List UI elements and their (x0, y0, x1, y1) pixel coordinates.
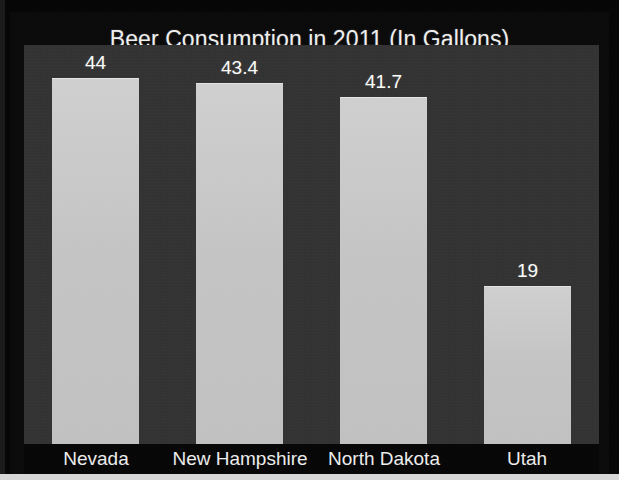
plot-area: 4443.441.719 (24, 45, 599, 444)
category-label: New Hampshire (168, 444, 312, 474)
frame-bottom-edge (0, 474, 619, 480)
bar[interactable] (52, 78, 139, 444)
bar-value-label: 41.7 (340, 71, 427, 93)
bar[interactable] (340, 97, 427, 444)
bar[interactable] (196, 83, 283, 444)
category-label: North Dakota (312, 444, 456, 474)
chart-image: Beer Consumption in 2011 (In Gallons) 44… (0, 0, 619, 480)
bar-group: 19 (484, 45, 571, 444)
category-label: Nevada (24, 444, 168, 474)
bar[interactable] (484, 286, 571, 444)
bar-group: 44 (52, 45, 139, 444)
bar-value-label: 44 (52, 52, 139, 74)
frame-left-edge (0, 0, 5, 480)
bar-value-label: 43.4 (196, 57, 283, 79)
category-axis: NevadaNew HampshireNorth DakotaUtah (24, 444, 599, 474)
category-label: Utah (455, 444, 599, 474)
bar-value-label: 19 (484, 260, 571, 282)
bar-group: 43.4 (196, 45, 283, 444)
chart-card: Beer Consumption in 2011 (In Gallons) 44… (10, 12, 609, 474)
bar-group: 41.7 (340, 45, 427, 444)
